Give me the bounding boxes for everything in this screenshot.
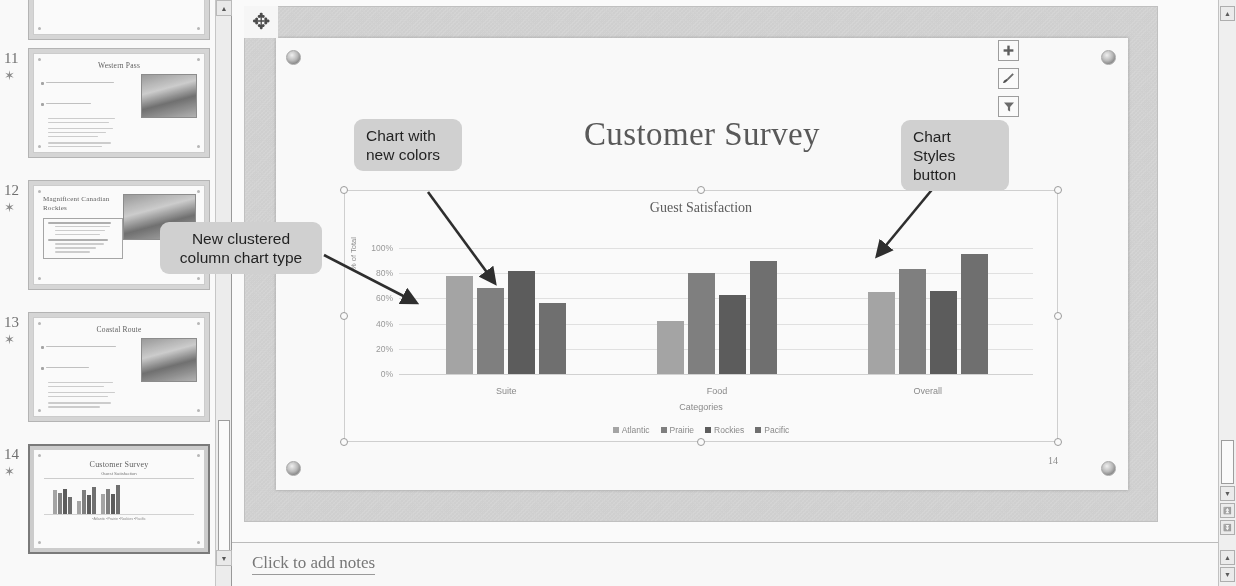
- slide-vertical-scrollbar[interactable]: ▲ ▼ ⏫ ⏬ ▲ ▼: [1218, 0, 1236, 586]
- mini-bar-group: [53, 489, 72, 514]
- bullet-line: [48, 132, 106, 133]
- bullet-line: [48, 128, 113, 129]
- mini-bar-group: [101, 485, 120, 514]
- slide-corner-dot: [38, 190, 41, 193]
- thumbnail-title: Western Pass: [34, 54, 204, 70]
- slide-corner-dot: [38, 541, 41, 544]
- thumbnail-scrollbar-thumb[interactable]: [218, 420, 230, 560]
- thumbnail-item-14[interactable]: 14 ✶ Customer Survey Guest Satisfaction …: [0, 444, 216, 554]
- slide-corner-dot: [38, 277, 41, 280]
- mini-bar: [63, 489, 67, 514]
- arrow-clustered-type: [324, 255, 415, 302]
- thumbnail-frame-selected[interactable]: Customer Survey Guest Satisfaction ▪Atla…: [28, 444, 210, 554]
- scroll-down-button[interactable]: ▼: [1220, 486, 1235, 501]
- animation-star-icon[interactable]: ✶: [4, 69, 28, 83]
- thumbnail-item-partial[interactable]: [0, 0, 216, 40]
- mini-chart-plot: [44, 481, 194, 515]
- mini-bar: [106, 489, 110, 514]
- bullet-line: [48, 392, 115, 393]
- slide-corner-dot: [197, 145, 200, 148]
- thumbnail-gutter: 14 ✶: [0, 444, 28, 554]
- bullet-line: [48, 136, 98, 137]
- notes-scroll-down-button[interactable]: ▼: [1220, 567, 1235, 582]
- slide-corner-dot: [197, 409, 200, 412]
- callout-clustered-type: New clustered column chart type: [160, 222, 322, 274]
- thumbnail-bullets: [41, 338, 137, 410]
- thumbnail-scroll-area: 11 ✶ Western Pass: [0, 0, 216, 566]
- animation-star-icon[interactable]: ✶: [4, 201, 28, 215]
- mini-bar: [87, 495, 91, 514]
- thumbnail-gutter: 11 ✶: [0, 48, 28, 158]
- mini-bar: [82, 490, 86, 514]
- mini-bar: [92, 487, 96, 514]
- bullet-line: [41, 74, 137, 92]
- scrollbar-thumb[interactable]: [1221, 440, 1234, 484]
- slide-corner-dot: [197, 541, 200, 544]
- bullet-icon: [41, 346, 44, 349]
- thumbnail-canvas: Western Pass: [33, 53, 205, 153]
- thumbnail-title: Magnificent Canadian Rockies: [34, 186, 123, 213]
- previous-slide-button[interactable]: ⏫: [1220, 503, 1235, 518]
- bullet-line: [48, 142, 111, 143]
- bullet-line: [41, 359, 137, 377]
- slide-corner-dot: [38, 58, 41, 61]
- slide-thumbnail-panel: 11 ✶ Western Pass: [0, 0, 232, 586]
- bullet-line: [48, 122, 109, 123]
- bullet-line: [48, 402, 111, 403]
- mini-bar: [77, 501, 81, 514]
- slide-corner-dot: [197, 190, 200, 193]
- bullet-line: [48, 406, 100, 407]
- thumbnail-body: [34, 334, 204, 410]
- mini-bar: [111, 494, 115, 514]
- slide-corner-dot: [38, 409, 41, 412]
- slide-corner-dot: [197, 277, 200, 280]
- thumbnail-frame[interactable]: Western Pass: [28, 48, 210, 158]
- thumbnail-title: Coastal Route: [34, 318, 204, 334]
- thumbnail-gutter: 13 ✶: [0, 312, 28, 422]
- thumbnail-frame[interactable]: Coastal Route: [28, 312, 210, 422]
- bullet-line: [48, 396, 108, 397]
- callout-new-colors: Chart with new colors: [354, 119, 462, 171]
- thumbnail-scroll-up-button[interactable]: ▲: [216, 0, 232, 16]
- thumbnail-canvas: Coastal Route: [33, 317, 205, 417]
- bullet-icon: [41, 367, 44, 370]
- mini-chart-legend: ▪Atlantic ▪Prairie ▪Rockies ▪Pacific: [44, 517, 194, 521]
- mini-bar: [58, 493, 62, 513]
- animation-star-icon[interactable]: ✶: [4, 465, 28, 479]
- thumbnail-gutter: [0, 0, 28, 40]
- bullet-icon: [41, 82, 44, 85]
- thumbnail-bullets: [41, 74, 137, 150]
- notes-scroll-up-button[interactable]: ▲: [1220, 550, 1235, 565]
- animation-star-icon[interactable]: ✶: [4, 333, 28, 347]
- callout-chart-styles: Chart Styles button: [901, 120, 1009, 191]
- slide-corner-dot: [197, 454, 200, 457]
- bullet-line: [48, 146, 102, 147]
- thumbnail-number: 12: [4, 182, 28, 198]
- thumbnail-item-11[interactable]: 11 ✶ Western Pass: [0, 48, 216, 158]
- bullet-line: [41, 338, 137, 356]
- thumbnail-title: Customer Survey: [34, 450, 204, 469]
- slide-corner-dot: [38, 27, 41, 30]
- scroll-up-button[interactable]: ▲: [1220, 6, 1235, 21]
- thumbnail-scroll-down-button[interactable]: ▼: [216, 550, 232, 566]
- thumbnail-item-13[interactable]: 13 ✶ Coastal Route: [0, 312, 216, 422]
- thumbnail-number: 14: [4, 446, 28, 462]
- thumbnail-scrollbar[interactable]: ▲ ▼: [215, 0, 231, 586]
- slide-corner-dot: [197, 58, 200, 61]
- arrow-new-colors: [428, 192, 494, 282]
- thumbnail-photo: [141, 338, 197, 382]
- thumbnail-frame[interactable]: [28, 0, 210, 40]
- bullet-line: [48, 118, 115, 119]
- mini-bar: [53, 490, 57, 513]
- bullet-line: [48, 386, 104, 387]
- mini-bar-group: [77, 487, 96, 514]
- mini-bar: [116, 485, 120, 514]
- powerpoint-normal-view: 11 ✶ Western Pass: [0, 0, 1236, 586]
- thumbnail-canvas: Customer Survey Guest Satisfaction ▪Atla…: [33, 449, 205, 549]
- bullet-icon: [41, 103, 44, 106]
- mini-chart-title: Guest Satisfaction: [44, 471, 194, 479]
- next-slide-button[interactable]: ⏬: [1220, 520, 1235, 535]
- slide-corner-dot: [197, 27, 200, 30]
- mini-bar: [101, 494, 105, 514]
- callout-arrows: [232, 0, 1236, 586]
